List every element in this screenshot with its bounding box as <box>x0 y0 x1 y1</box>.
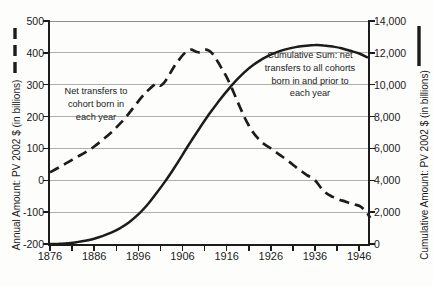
right-axis-tick-label: 2,000 <box>374 206 418 218</box>
x-axis-tick-label: 1886 <box>76 250 112 262</box>
x-axis-tick-label: 1916 <box>209 250 245 262</box>
x-axis-tick <box>160 246 162 251</box>
x-axis-tick <box>336 246 338 251</box>
plot-area: Net transfers to cohort born in each yea… <box>50 21 368 244</box>
x-axis-tick <box>204 246 206 251</box>
x-axis-tick-label: 1906 <box>165 250 201 262</box>
right-axis-tick-label: 4,000 <box>374 174 418 186</box>
left-axis-tick-label: 500 <box>4 15 44 27</box>
x-axis-tick-label: 1926 <box>253 250 289 262</box>
annual-net-transfers-line <box>50 50 370 218</box>
right-axis-tick-label: 0 <box>374 238 418 250</box>
left-axis-tick-label: 0 <box>4 174 44 186</box>
left-axis-tick-label: -200 <box>4 238 44 250</box>
right-axis-tick-label: 12,000 <box>374 47 418 59</box>
x-axis-tick <box>116 246 118 251</box>
x-axis-tick <box>248 246 250 251</box>
chart-curves <box>50 21 368 244</box>
right-axis-tick-label: 8,000 <box>374 111 418 123</box>
x-axis-tick-label: 1876 <box>32 250 68 262</box>
left-axis-tick-label: -100 <box>4 206 44 218</box>
right-axis-tick-label: 6,000 <box>374 142 418 154</box>
right-axis-tick-label: 14,000 <box>374 15 418 27</box>
right-axis-title: Cumulative Amount: PV 2002 $ (in billion… <box>417 65 433 265</box>
x-axis-tick-label: 1896 <box>120 250 156 262</box>
x-axis-tick-label: 1936 <box>297 250 333 262</box>
left-axis-tick-label: 300 <box>4 79 44 91</box>
x-axis-tick <box>71 246 73 251</box>
x-axis-tick <box>292 246 294 251</box>
left-axis-tick-label: 200 <box>4 111 44 123</box>
x-axis-line <box>48 244 370 246</box>
right-axis-tick-label: 10,000 <box>374 79 418 91</box>
left-axis-tick-label: 400 <box>4 47 44 59</box>
figure: Annual Amount: PV 2002 $ (in billions) C… <box>0 0 433 286</box>
x-axis-tick-label: 1946 <box>341 250 377 262</box>
left-axis-tick-label: 100 <box>4 142 44 154</box>
left-axis-title: Annual Amount: PV 2002 $ (in billions) <box>9 65 25 265</box>
